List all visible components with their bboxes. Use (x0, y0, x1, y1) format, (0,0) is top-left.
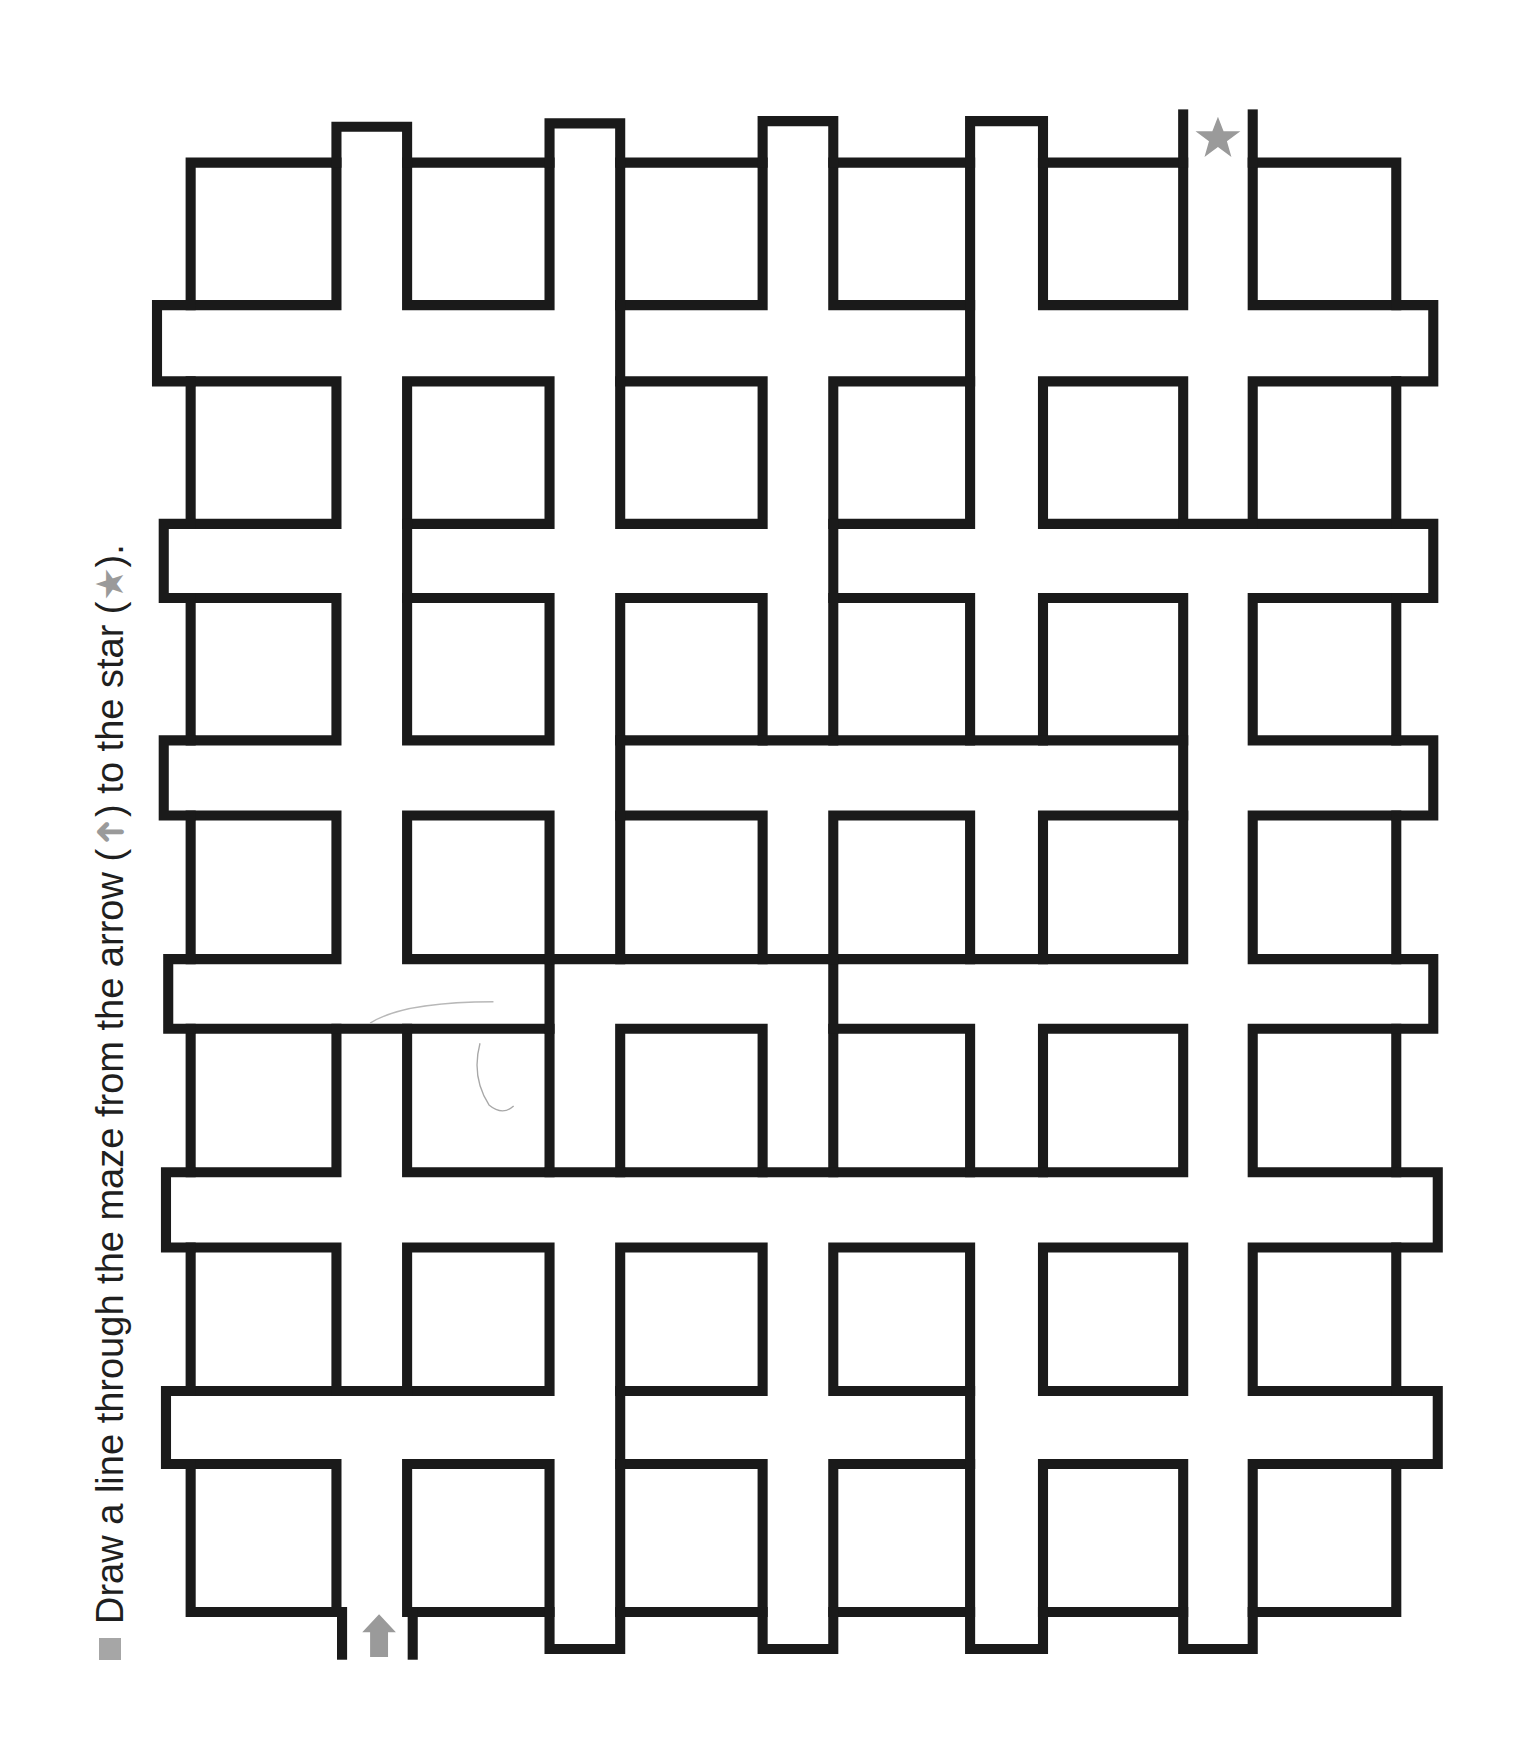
maze-wall (336, 127, 407, 163)
maze-wall (620, 1464, 762, 1612)
maze-wall (833, 1247, 970, 1391)
maze-wall (970, 1612, 1043, 1649)
maze-wall (1253, 381, 1397, 523)
maze-wall (1043, 381, 1183, 523)
maze-wall (191, 598, 337, 740)
maze-wall (1396, 524, 1433, 598)
maze-wall (620, 381, 762, 523)
maze-wall (1253, 816, 1397, 960)
maze-wall (1183, 1612, 1253, 1649)
maze-wall (1253, 1247, 1397, 1391)
maze-wall (550, 123, 621, 162)
maze-wall (1253, 1029, 1397, 1173)
maze-wall (833, 1464, 970, 1612)
instruction-text: Draw a line through the maze from the ar… (88, 544, 132, 1660)
maze-wall (407, 1464, 549, 1612)
pencil-mark (370, 1002, 493, 1023)
star-glyph-icon: ★ (89, 567, 131, 601)
pencil-mark (477, 1043, 514, 1111)
maze-wall (1043, 163, 1183, 305)
maze-wall (1043, 816, 1183, 960)
maze-wall (620, 1029, 762, 1173)
maze-wall (833, 163, 970, 305)
maze-wall (620, 816, 762, 960)
maze-wall (1396, 1172, 1437, 1247)
maze-wall (833, 816, 970, 960)
maze-wall (1396, 959, 1433, 1029)
maze-wall (1043, 1247, 1183, 1391)
maze-wall (1253, 1464, 1397, 1612)
maze-wall (164, 524, 191, 598)
maze-wall (407, 1247, 549, 1391)
maze-wall (1253, 598, 1397, 740)
maze-wall (157, 305, 191, 381)
instruction-prefix: Draw a line through the maze from the ar… (89, 849, 131, 1624)
maze-wall (407, 381, 549, 523)
maze-wall (191, 381, 337, 523)
maze-wall (191, 816, 337, 960)
maze-wall (407, 816, 549, 960)
maze-wall (1253, 163, 1397, 305)
maze-wall (763, 121, 834, 163)
arrow-up-icon (362, 1614, 396, 1657)
maze-wall (1043, 1464, 1183, 1612)
maze-wall (191, 163, 337, 305)
maze[interactable] (0, 0, 1523, 1759)
maze-wall (164, 740, 191, 815)
maze-wall (191, 1464, 337, 1612)
maze-wall (166, 1172, 191, 1247)
maze-wall (620, 598, 762, 740)
maze-wall (833, 1029, 970, 1173)
maze-wall (1396, 305, 1433, 381)
maze-wall (970, 121, 1043, 163)
maze-wall (1043, 598, 1183, 740)
instruction-suffix: ). (89, 544, 131, 567)
maze-wall (1396, 1391, 1437, 1464)
maze-wall (833, 381, 970, 523)
maze-wall (763, 1612, 834, 1649)
maze-wall (1043, 1029, 1183, 1173)
maze-wall (833, 598, 970, 740)
maze-wall (407, 163, 549, 305)
instruction-middle: ) to the star ( (89, 601, 131, 816)
bullet-square-icon (99, 1638, 121, 1660)
star-icon (1196, 117, 1241, 157)
maze-wall (1396, 740, 1433, 815)
maze-wall (168, 959, 190, 1029)
maze-wall (620, 1247, 762, 1391)
maze-walls (157, 114, 1438, 1654)
maze-wall (191, 1029, 337, 1173)
maze-wall (407, 598, 549, 740)
maze-wall (550, 1612, 621, 1649)
maze-wall (166, 1391, 191, 1464)
arrow-glyph-icon: ➜ (94, 811, 126, 855)
maze-wall (191, 1247, 337, 1391)
maze-wall (620, 163, 762, 305)
